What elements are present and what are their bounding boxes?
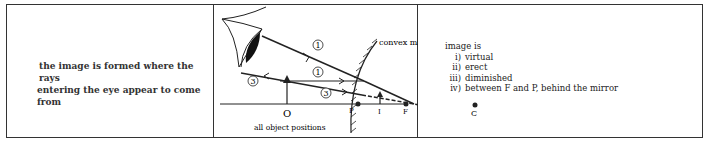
property-text: virtual	[465, 52, 493, 62]
focus-point	[404, 102, 409, 107]
ray-label-1b: 1	[315, 68, 320, 77]
ray-label-1: 1	[315, 41, 320, 50]
image-formation-description: the image is formed where the rays enter…	[37, 60, 217, 108]
property-item: iv)between F and P, behind the mirror	[445, 83, 618, 94]
property-item: i)virtual	[445, 52, 618, 63]
ray-label-3: 3	[250, 77, 255, 86]
property-number: iv)	[445, 83, 461, 94]
property-number: i)	[445, 52, 461, 63]
property-number: ii)	[445, 62, 461, 73]
property-item: iii)diminished	[445, 73, 618, 84]
focus-label: F	[403, 108, 408, 116]
property-number: iii)	[445, 73, 461, 84]
object-label: O	[283, 108, 291, 119]
convex-mirror-ray-diagram: 1 1 3 3 convex mirror O P I F all object…	[214, 5, 418, 137]
property-item: ii)erect	[445, 62, 618, 73]
ray-label-3b: 3	[323, 89, 328, 98]
image-properties-list: image is i)virtual ii)erect iii)diminish…	[445, 41, 618, 94]
description-line-1: the image is formed where the rays	[37, 60, 217, 84]
pole-label: P	[349, 107, 354, 115]
description-cell: the image is formed where the rays enter…	[7, 5, 214, 137]
mirror-label: convex mirror	[379, 38, 418, 47]
eye-icon	[222, 7, 266, 67]
ray-diagram-table-row: the image is formed where the rays enter…	[6, 4, 703, 138]
image-label: I	[378, 108, 381, 116]
pole-point	[356, 102, 361, 107]
diagram-cell: 1 1 3 3 convex mirror O P I F all object…	[214, 5, 418, 137]
property-text: diminished	[465, 73, 512, 83]
property-text: erect	[465, 62, 487, 72]
properties-cell: image is i)virtual ii)erect iii)diminish…	[418, 5, 702, 137]
properties-heading: image is	[445, 41, 618, 52]
property-text: between F and P, behind the mirror	[465, 83, 618, 93]
description-line-2: entering the eye appear to come from	[37, 84, 217, 108]
diagram-caption: all object positions	[254, 123, 326, 132]
